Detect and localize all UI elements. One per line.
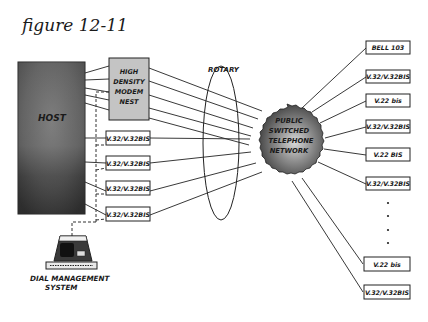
left-modem-1: V.32/V.32BIS xyxy=(106,156,151,170)
svg-text:BELL 103: BELL 103 xyxy=(372,44,405,51)
remote-modem-2: V.22 bis xyxy=(366,94,410,107)
remote-modem-3: V.32/V.32BIS xyxy=(366,120,411,133)
svg-text:V.32/V.32BIS: V.32/V.32BIS xyxy=(366,123,411,130)
figure-title: figure 12-11 xyxy=(20,15,128,35)
left-modem-2: V.32/V.32BIS xyxy=(106,181,151,195)
svg-text:SWITCHED: SWITCHED xyxy=(269,127,310,135)
left-modem-0: V.32/V.32BIS xyxy=(106,131,151,145)
host-label: HOST xyxy=(38,113,67,123)
svg-text:V.32/V.32BIS: V.32/V.32BIS xyxy=(106,160,151,167)
dial-management-terminal xyxy=(46,236,97,269)
svg-text:DENSITY: DENSITY xyxy=(113,78,146,86)
remote-modem-4: V.22 BIS xyxy=(366,148,410,161)
remote-modem-7: V.32/V.32BIS xyxy=(364,285,410,299)
svg-text:V.22 bis: V.22 bis xyxy=(374,97,402,104)
left-modem-3: V.32/V.32BIS xyxy=(106,207,151,221)
trunk-lines xyxy=(149,68,262,215)
svg-text:V.32/V.32BIS: V.32/V.32BIS xyxy=(366,180,411,187)
svg-text:V.22 bis: V.22 bis xyxy=(373,261,401,268)
remote-modem-0: BELL 103 xyxy=(366,41,410,54)
svg-text:V.32/V.32BIS: V.32/V.32BIS xyxy=(106,185,151,192)
svg-text:V.32/V.32BIS: V.32/V.32BIS xyxy=(106,211,151,218)
svg-text:V.32/V.32BIS: V.32/V.32BIS xyxy=(365,289,410,296)
svg-text:PUBLIC: PUBLIC xyxy=(275,117,303,125)
dial-management-label-line2: SYSTEM xyxy=(45,283,78,292)
svg-text:TELEPHONE: TELEPHONE xyxy=(268,137,313,145)
svg-text:NEST: NEST xyxy=(120,98,140,106)
rotary-label: ROTARY xyxy=(208,66,240,74)
telephone-network-cloud: PUBLIC SWITCHED TELEPHONE NETWORK xyxy=(259,104,324,174)
host-computer: HOST xyxy=(18,62,85,214)
svg-text:V.32/V.32BIS: V.32/V.32BIS xyxy=(106,135,151,142)
remote-modem-6: V.22 bis xyxy=(364,257,410,271)
svg-text:MODEM: MODEM xyxy=(115,88,144,96)
svg-text:HIGH: HIGH xyxy=(120,68,139,76)
svg-text:V.22 BIS: V.22 BIS xyxy=(374,151,403,158)
dial-management-label-line1: DIAL MANAGEMENT xyxy=(30,274,110,283)
svg-text:V.32/V.32BIS: V.32/V.32BIS xyxy=(366,73,411,80)
host-to-nest-lines xyxy=(85,66,109,110)
rotary-ellipse xyxy=(203,66,239,220)
remote-modem-1: V.32/V.32BIS xyxy=(366,70,411,83)
high-density-modem-nest: HIGH DENSITY MODEM NEST xyxy=(109,58,149,120)
svg-text:NETWORK: NETWORK xyxy=(270,147,309,155)
diagram-canvas: figure 12-11 ROTARY xyxy=(0,0,428,322)
remote-modem-5: V.32/V.32BIS xyxy=(366,177,411,190)
ellipsis-dots xyxy=(387,202,389,244)
